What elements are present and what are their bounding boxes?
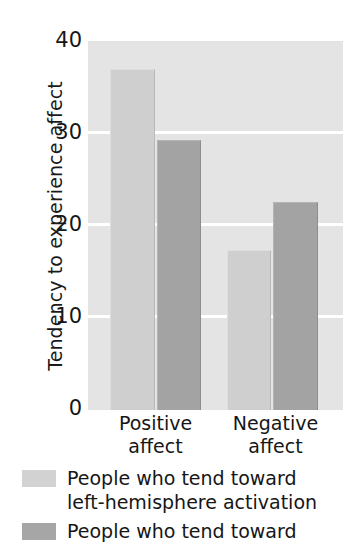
bar-positive-left-hemisphere: [110, 69, 155, 410]
x-category-negative-affect: Negative affect: [208, 412, 343, 458]
legend-entry-right-hemisphere: People who tend toward: [22, 519, 355, 543]
legend-swatch-dark: [22, 523, 56, 540]
legend-label-right-hemisphere: People who tend toward: [67, 519, 296, 543]
plot-area: [88, 41, 343, 410]
legend-label-left-hemisphere-line1: People who tend toward: [67, 466, 317, 490]
bar-chart-figure: Tendency to experience affect 40 30 20 1…: [0, 0, 355, 557]
y-axis-tick-labels: 40 30 20 10 0: [0, 41, 82, 410]
x-category-positive-affect: Positive affect: [88, 412, 223, 458]
bar-negative-right-hemisphere: [273, 202, 318, 410]
legend-entry-left-hemisphere: People who tend toward left-hemisphere a…: [22, 466, 355, 514]
y-tick-20: 20: [8, 214, 82, 235]
x-category-positive-line1: Positive: [88, 412, 223, 435]
legend-label-right-hemisphere-line1: People who tend toward: [67, 519, 296, 543]
x-axis-category-labels: Positive affect Negative affect: [88, 412, 343, 464]
bar-negative-left-hemisphere: [227, 250, 271, 410]
x-category-positive-line2: affect: [88, 435, 223, 458]
y-tick-40: 40: [8, 30, 82, 51]
bar-positive-right-hemisphere: [157, 140, 201, 410]
legend-label-left-hemisphere: People who tend toward left-hemisphere a…: [67, 466, 317, 514]
y-tick-30: 30: [8, 122, 82, 143]
x-category-negative-line1: Negative: [208, 412, 343, 435]
chart-legend: People who tend toward left-hemisphere a…: [22, 466, 355, 548]
legend-swatch-light: [22, 470, 56, 487]
y-tick-10: 10: [8, 306, 82, 327]
x-category-negative-line2: affect: [208, 435, 343, 458]
y-tick-0: 0: [8, 398, 82, 419]
legend-label-left-hemisphere-line2: left-hemisphere activation: [67, 490, 317, 514]
